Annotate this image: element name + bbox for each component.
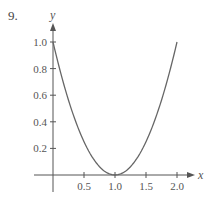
y-tick-label: 0.6	[33, 89, 47, 101]
y-axis-label: y	[49, 8, 56, 22]
y-axis-arrow-icon	[50, 23, 56, 31]
y-tick-label: 0.2	[33, 142, 47, 154]
y-tick-label: 0.8	[33, 63, 47, 75]
chart: 0.51.01.52.00.20.40.60.81.0 x y	[0, 0, 214, 203]
y-tick-label: 0.4	[33, 116, 47, 128]
x-tick-label: 1.0	[108, 180, 122, 192]
x-tick-label: 2.0	[170, 180, 184, 192]
axes	[34, 23, 195, 192]
x-axis-label: x	[197, 168, 204, 182]
x-tick-label: 1.5	[139, 180, 153, 192]
y-tick-label: 1.0	[33, 36, 47, 48]
x-tick-label: 0.5	[77, 180, 91, 192]
tick-labels: 0.51.01.52.00.20.40.60.81.0	[33, 36, 184, 192]
x-axis-arrow-icon	[187, 172, 195, 178]
parabola-curve	[53, 42, 177, 175]
